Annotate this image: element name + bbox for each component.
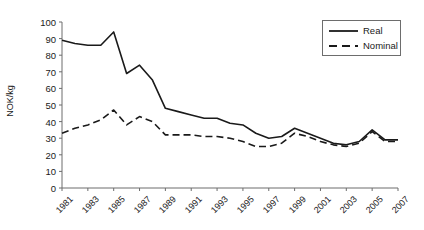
legend-swatch-nominal (327, 39, 360, 53)
legend-item-nominal: Nominal (327, 39, 399, 53)
legend-label-nominal: Nominal (363, 39, 398, 53)
legend-item-real: Real (327, 24, 399, 38)
legend-label-real: Real (363, 24, 383, 38)
legend: Real Nominal (322, 20, 401, 56)
line-chart: NOK/kg 0102030405060708090100 1981198319… (0, 0, 424, 230)
legend-swatch-real (327, 24, 360, 38)
series-line-nominal (62, 110, 398, 147)
